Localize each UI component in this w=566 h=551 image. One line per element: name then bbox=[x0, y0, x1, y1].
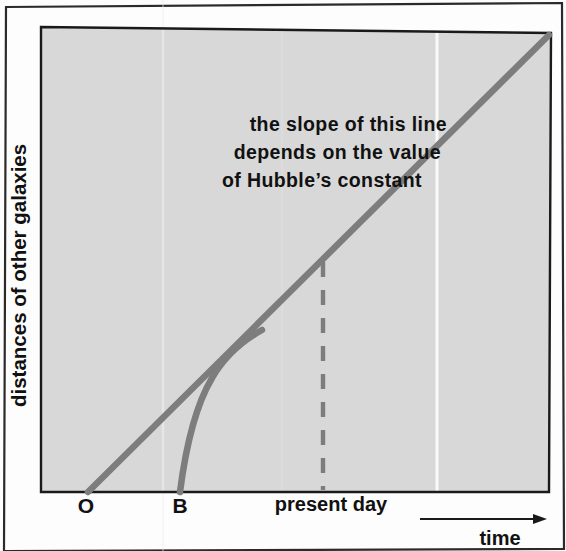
y-axis-label: distances of other galaxies bbox=[7, 144, 30, 407]
figure-page: the slope of this line depends on the va… bbox=[0, 0, 566, 551]
plot-background bbox=[41, 27, 551, 492]
x-tick-label-origin: O bbox=[78, 494, 94, 517]
hubble-expansion-diagram: the slope of this line depends on the va… bbox=[0, 0, 566, 551]
x-tick-label-bigbang: B bbox=[172, 494, 187, 517]
x-axis-label: time bbox=[479, 527, 520, 549]
hubble-slope-annotation: the slope of this line depends on the va… bbox=[222, 113, 447, 191]
annotation-line-3: of Hubble’s constant bbox=[222, 169, 422, 191]
annotation-line-2: depends on the value bbox=[234, 141, 441, 163]
annotation-line-1: the slope of this line bbox=[250, 113, 447, 135]
present-day-label: present day bbox=[275, 493, 388, 515]
